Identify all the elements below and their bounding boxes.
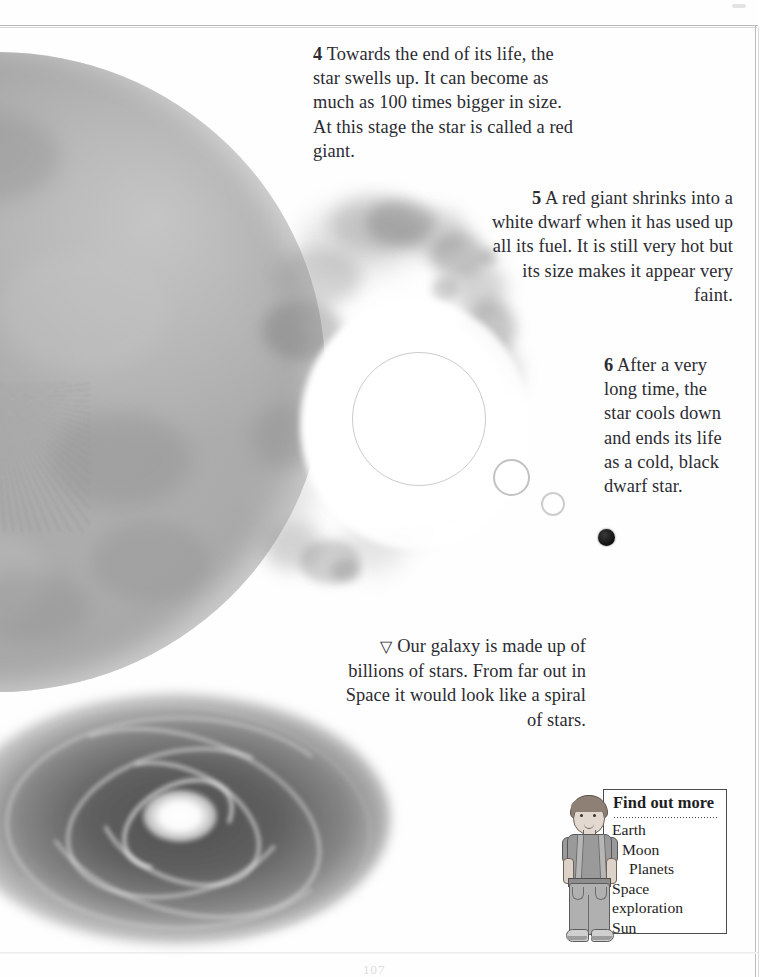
galaxy-arm	[0, 684, 383, 957]
boy-sole-left	[566, 936, 587, 940]
star-edge-glow	[0, 52, 325, 692]
galaxy-arm	[76, 736, 281, 913]
page-number: 107	[363, 962, 386, 977]
scan-right-margin	[759, 0, 772, 977]
star-surface-patch	[0, 522, 50, 632]
boy-trouser-seam	[588, 895, 589, 933]
page-border-top	[0, 25, 758, 26]
find-out-more-title: Find out more	[613, 793, 714, 813]
black-dwarf-star	[598, 529, 615, 546]
step-6-body: After a very long time, the star cools d…	[604, 355, 722, 496]
step-6-text: 6 After a very long time, the star cools…	[604, 353, 736, 498]
step-6-number: 6	[604, 355, 613, 375]
white-dwarf-star-small	[541, 492, 565, 516]
step-5-text: 5 A red giant shrinks into a white dwarf…	[487, 186, 733, 307]
step-5-number: 5	[532, 188, 541, 208]
page-border-right	[755, 25, 756, 977]
star-surface-patch	[0, 112, 60, 202]
star-surface-patch	[0, 572, 90, 642]
galaxy-arm	[5, 716, 353, 930]
triangle-down-icon: ▽	[380, 638, 392, 655]
step-4-text: 4 Towards the end of its life, the star …	[313, 42, 579, 163]
book-page: 4 Towards the end of its life, the star …	[0, 0, 772, 977]
galaxy-arm	[106, 759, 250, 888]
boy-eye-right	[593, 814, 596, 817]
boy-sole-right	[591, 936, 612, 940]
galaxy-arm	[12, 693, 347, 953]
star-surface-patch	[90, 522, 210, 602]
white-dwarf-star	[493, 459, 530, 496]
find-out-more-item-space-exploration[interactable]: Space exploration	[612, 879, 724, 918]
boy-eye-left	[580, 814, 583, 817]
step-5-body: A red giant shrinks into a white dwarf w…	[492, 188, 733, 305]
find-out-more-item-moon[interactable]: Moon	[612, 840, 724, 860]
find-out-more-list: Earth Moon Planets Space exploration Sun	[612, 820, 724, 938]
red-giant-star-illustration	[0, 52, 325, 692]
boy-pocket-right	[595, 887, 607, 900]
boy-pocket-left	[572, 887, 584, 900]
boy-fringe	[571, 800, 605, 812]
galaxy-arm	[50, 724, 308, 921]
find-out-more-item-planets[interactable]: Planets	[612, 859, 724, 879]
step-4-number: 4	[313, 44, 322, 64]
star-corona-rays	[0, 382, 90, 532]
boy-illustration	[556, 795, 622, 943]
step-4-body: Towards the end of its life, the star sw…	[313, 44, 573, 161]
page-bottom-edge	[0, 952, 758, 954]
galaxy-core	[143, 790, 217, 842]
scan-smudge	[732, 4, 746, 8]
red-giant-outline	[352, 352, 486, 486]
find-out-more-item-earth[interactable]: Earth	[612, 820, 724, 840]
star-body	[0, 52, 325, 692]
star-surface-patch	[50, 412, 190, 507]
find-out-more-item-sun[interactable]: Sun	[612, 918, 724, 938]
galaxy-caption: ▽ Our galaxy is made up of billions of s…	[330, 634, 586, 732]
star-surface-patch	[0, 252, 170, 372]
find-out-more-divider	[613, 816, 719, 818]
page-border-top-inner	[0, 27, 757, 28]
